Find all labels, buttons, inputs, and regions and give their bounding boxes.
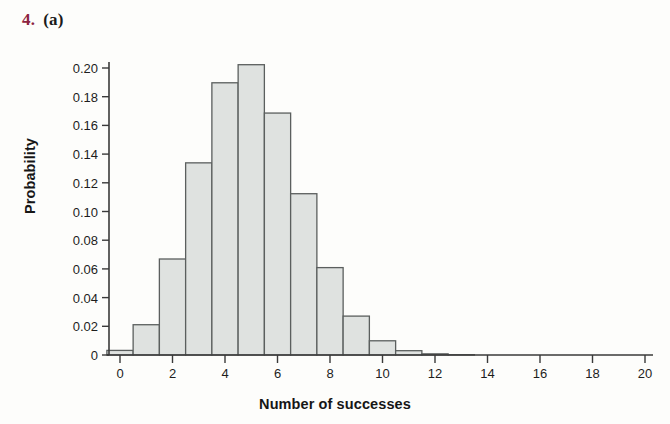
histogram-bar [238,65,264,355]
histogram-bar [186,163,212,355]
histogram-bar [291,194,317,355]
histogram-bar [343,316,369,355]
histogram-svg [0,0,670,424]
chart-plot-area: Probability Number of successes 00.020.0… [0,0,670,424]
histogram-bars [107,65,475,355]
histogram-bar [212,83,238,355]
histogram-bar [264,113,290,355]
histogram-bar [317,268,343,355]
histogram-bar [133,325,159,355]
histogram-bar [159,259,185,355]
histogram-bar [369,341,395,355]
